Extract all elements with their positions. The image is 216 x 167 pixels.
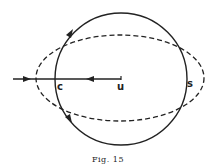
orbit-diagram: c u s Fig. 15 (0, 0, 216, 167)
figure-caption: Fig. 15 (92, 155, 124, 164)
arrow-left-icon (86, 76, 94, 82)
arrow-right-icon (23, 76, 31, 82)
label-u: u (117, 81, 124, 92)
label-s: s (187, 78, 193, 89)
arrow-up-icon (66, 29, 73, 38)
label-c: c (57, 81, 63, 92)
